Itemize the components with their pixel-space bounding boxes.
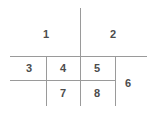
- region-label-6: 6: [121, 78, 135, 89]
- region-label-1: 1: [39, 29, 53, 40]
- region-label-2: 2: [106, 29, 120, 40]
- region-label-8: 8: [90, 88, 104, 99]
- diagram-canvas: [0, 0, 150, 122]
- region-label-4: 4: [56, 63, 70, 74]
- region-label-5: 5: [90, 63, 104, 74]
- region-label-7: 7: [56, 88, 70, 99]
- partition-diagram: 12345678: [0, 0, 150, 122]
- region-label-3: 3: [22, 63, 36, 74]
- diagram-line-group: [10, 8, 147, 106]
